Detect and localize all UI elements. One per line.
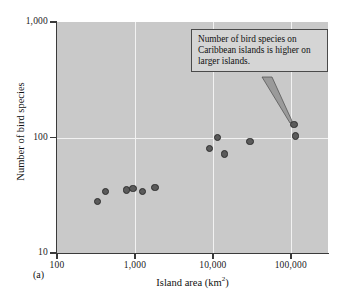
- data-point: [290, 121, 298, 129]
- callout-annotation: Number of bird species on Caribbean isla…: [191, 29, 328, 72]
- x-axis-tick-label: 1,000: [95, 260, 175, 270]
- x-axis-title-close: ): [225, 277, 229, 288]
- x-axis-tick: [56, 253, 57, 259]
- x-axis-line: [56, 253, 329, 254]
- x-axis-title: Island area (km2): [57, 275, 328, 288]
- data-point: [221, 150, 229, 158]
- y-axis-title: Number of bird species: [15, 42, 26, 222]
- y-axis-tick-label: 10: [0, 247, 48, 257]
- x-axis-tick-label: 100,000: [251, 260, 331, 270]
- gridline-horizontal: [57, 138, 328, 139]
- x-axis-title-main: Island area (km: [156, 277, 221, 288]
- y-axis-tick: [50, 137, 57, 138]
- figure: 1001,00010,000100,000101001,000 Number o…: [0, 0, 343, 301]
- y-axis-tick-label: 1,000: [0, 16, 48, 26]
- y-axis-tick: [50, 21, 57, 22]
- x-axis-tick: [212, 253, 213, 259]
- data-point: [292, 132, 300, 140]
- x-axis-tick-label: 10,000: [173, 260, 253, 270]
- panel-label: (a): [33, 269, 44, 280]
- x-axis-tick: [290, 253, 291, 259]
- x-axis-tick-label: 100: [17, 260, 97, 270]
- data-point: [151, 184, 159, 192]
- y-axis-tick: [50, 252, 57, 253]
- x-axis-tick: [134, 253, 135, 259]
